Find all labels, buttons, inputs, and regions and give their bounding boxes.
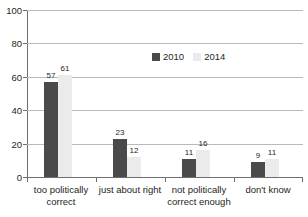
y-axis-label-100: 100: [0, 6, 22, 15]
bar-value-label: 23: [105, 129, 135, 137]
x-tick-0: [27, 177, 28, 182]
bar-2010-just-about-right[interactable]: 23: [113, 139, 127, 177]
bar-value-label: 12: [119, 147, 149, 155]
x-tick-2: [165, 177, 166, 182]
y-axis-label-0: 0: [0, 173, 22, 182]
bar-fill: [44, 82, 58, 177]
y-axis-label-60: 60: [0, 73, 22, 82]
x-axis-label-just-about-right: just about right: [92, 184, 168, 196]
y-axis-label-20: 20: [0, 140, 22, 149]
legend-label-2010: 2010: [163, 52, 184, 62]
x-tick-3: [234, 177, 235, 182]
bar-fill: [265, 159, 279, 177]
y-axis-label-40: 40: [0, 106, 22, 115]
bar-2010-not-politically-correct-enough[interactable]: 11: [182, 159, 196, 177]
legend-item-2010[interactable]: 2010: [152, 52, 184, 62]
legend-swatch-icon-2014: [193, 53, 201, 61]
bar-2014-just-about-right[interactable]: 12: [127, 157, 141, 177]
x-axis-label-dont-know: don't know: [230, 184, 306, 196]
bar-fill: [127, 157, 141, 177]
plot-area: 57 61 23 12: [27, 10, 303, 177]
chart-legend: 2010 2014: [152, 52, 225, 62]
bar-value-label: 11: [257, 149, 287, 157]
bar-2014-too-politically-correct[interactable]: 61: [58, 75, 72, 177]
bar-chart: 100 80 60 40 20 0 57 61: [0, 0, 308, 217]
bar-group-just-about-right: 23 12: [96, 10, 165, 177]
legend-label-2014: 2014: [204, 52, 225, 62]
x-axis-label-not-politically-correct-enough: not politically correct enough: [161, 184, 237, 207]
bar-value-label: 61: [50, 65, 80, 73]
bar-fill: [196, 150, 210, 177]
y-axis-label-80: 80: [0, 39, 22, 48]
x-tick-1: [96, 177, 97, 182]
bar-2014-not-politically-correct-enough[interactable]: 16: [196, 150, 210, 177]
bar-group-dont-know: 9 11: [234, 10, 303, 177]
x-axis-label-too-politically-correct: too politically correct: [23, 184, 99, 207]
bar-2010-too-politically-correct[interactable]: 57: [44, 82, 58, 177]
x-tick-4: [302, 177, 303, 182]
legend-item-2014[interactable]: 2014: [193, 52, 225, 62]
legend-swatch-icon-2010: [152, 53, 160, 61]
bar-fill: [58, 75, 72, 177]
bar-group-too-politically-correct: 57 61: [27, 10, 96, 177]
bar-2010-dont-know[interactable]: 9: [251, 162, 265, 177]
bar-fill: [113, 139, 127, 177]
bar-fill: [182, 159, 196, 177]
bar-fill: [251, 162, 265, 177]
bar-value-label: 16: [188, 140, 218, 148]
bar-group-not-politically-correct-enough: 11 16: [165, 10, 234, 177]
bar-2014-dont-know[interactable]: 11: [265, 159, 279, 177]
